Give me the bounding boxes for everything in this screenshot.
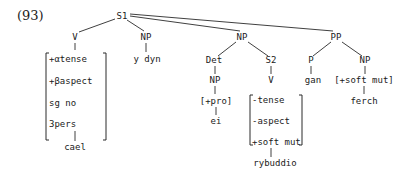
- feature-aspect: +βaspect: [49, 76, 92, 86]
- node-s2-v: V: [268, 75, 274, 85]
- syntax-tree-diagram: (93) S1 V +αtense +βaspect sg no 3pers c…: [0, 0, 407, 174]
- edge-np2-det: [218, 42, 236, 56]
- edge-pp-np: [342, 42, 362, 56]
- leaf-rybuddio: rybuddio: [253, 158, 296, 168]
- edge-np2-s2: [248, 42, 268, 56]
- node-p: P: [308, 55, 314, 65]
- node-det: Det: [206, 55, 222, 65]
- example-number: (93): [17, 8, 44, 23]
- node-pp-np: NP: [360, 55, 371, 65]
- node-s1: S1: [117, 11, 128, 21]
- edge-pp-p: [313, 42, 331, 56]
- edge-s1-v: [79, 19, 115, 32]
- leaf-cael: cael: [64, 142, 86, 152]
- node-s2: S2: [266, 55, 277, 65]
- node-det-np: NP: [210, 75, 221, 85]
- node-pp: PP: [331, 32, 342, 42]
- feature-soft-mut: +soft mut: [252, 137, 301, 147]
- leaf-y-dyn: y dyn: [133, 54, 160, 64]
- leaf-ferch: ferch: [350, 96, 377, 106]
- edge-s1-pp: [130, 14, 333, 31]
- feature-tense: +αtense: [49, 54, 87, 64]
- node-np2: NP: [237, 32, 248, 42]
- leaf-gan: gan: [305, 75, 321, 85]
- feature-soft-mut-np: [+soft mut]: [334, 75, 394, 85]
- feature-person: 3pers: [49, 119, 76, 129]
- node-v: V: [72, 32, 78, 42]
- feature-neg-aspect: -aspect: [252, 116, 290, 126]
- edge-s1-np1: [127, 20, 144, 31]
- node-np1: NP: [141, 32, 152, 42]
- feature-number: sg no: [49, 98, 76, 108]
- bracket-right-v: [103, 53, 106, 140]
- feature-neg-tense: -tense: [252, 95, 285, 105]
- feature-pro: [+pro]: [200, 96, 233, 106]
- leaf-ei: ei: [211, 116, 222, 126]
